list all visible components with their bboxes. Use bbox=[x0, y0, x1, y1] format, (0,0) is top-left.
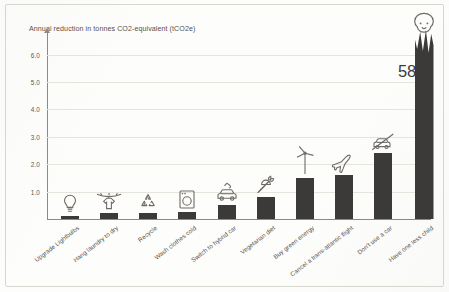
bar-cancel-a-trans-atlantic-flight bbox=[335, 175, 353, 219]
bar-buy-green-energy bbox=[296, 178, 314, 219]
gridline: 4.0 bbox=[47, 109, 431, 110]
y-axis-tick-label: 3.0 bbox=[31, 133, 40, 140]
bar-value-label-have-one-less-child: 58.6 bbox=[398, 62, 429, 81]
chart-title: Annual reduction in tonnes CO2-equivalen… bbox=[29, 25, 195, 33]
plot-area: 1.02.03.04.05.06.0 bbox=[47, 38, 431, 219]
gridline: 5.0 bbox=[47, 82, 431, 83]
y-axis-tick-label: 1.0 bbox=[31, 188, 40, 195]
airplane-icon bbox=[331, 153, 357, 173]
bar-wash-clothes-cold bbox=[178, 212, 196, 219]
x-axis-line bbox=[47, 219, 431, 220]
gridline: 3.0 bbox=[47, 137, 431, 138]
x-axis-tick-label: Wash clothes cold bbox=[153, 224, 197, 261]
bar-vegetarian-diet bbox=[257, 197, 275, 220]
bar-switch-to-hybrid-car bbox=[218, 205, 236, 219]
y-axis-tick-label: 4.0 bbox=[31, 106, 40, 113]
chart-figure: Annual reduction in tonnes CO2-equivalen… bbox=[0, 0, 449, 292]
y-axis-tick-label: 6.0 bbox=[31, 51, 40, 58]
x-axis-tick-label: Don't use a car bbox=[356, 224, 394, 255]
washing-machine-icon bbox=[179, 190, 195, 209]
bar-recycle bbox=[139, 213, 157, 219]
x-axis-tick-label: Have one less child bbox=[387, 224, 434, 263]
gridline: 6.0 bbox=[47, 55, 431, 56]
baby-face-icon bbox=[411, 12, 437, 36]
laundry-line-icon bbox=[96, 192, 122, 210]
wind-turbine-icon bbox=[295, 145, 315, 175]
bar-have-one-less-child bbox=[415, 28, 434, 219]
x-axis-tick-label: Vegetarian diet bbox=[239, 224, 276, 255]
bar-don-t-use-a-car bbox=[374, 153, 392, 219]
y-axis-tick-label: 5.0 bbox=[31, 78, 40, 85]
y-axis-tick-label: 2.0 bbox=[31, 161, 40, 168]
recycle-icon bbox=[140, 193, 157, 210]
bar-hang-laundry-to-dry bbox=[100, 213, 118, 219]
lightbulb-icon bbox=[63, 194, 78, 214]
bar-upgrade-lightbulbs bbox=[61, 216, 79, 219]
x-axis-tick-label: Recycle bbox=[136, 224, 158, 243]
